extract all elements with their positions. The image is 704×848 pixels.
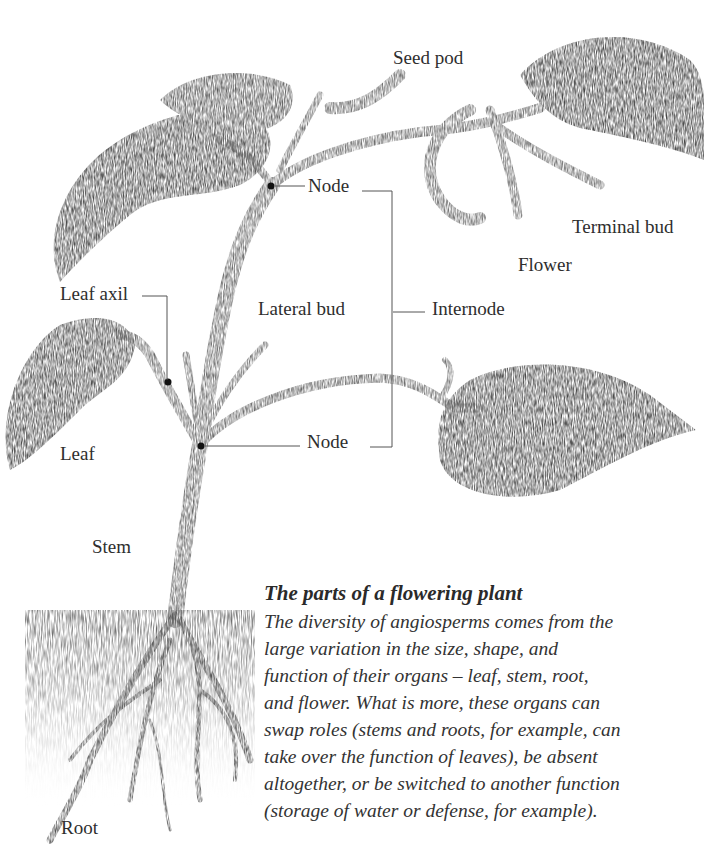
caption-body: The diversity of angiosperms comes from … [264, 608, 704, 824]
label-flower: Flower [518, 255, 572, 274]
label-leaf-axil: Leaf axil [60, 284, 128, 303]
figure-caption: The parts of a flowering plant The diver… [264, 580, 704, 824]
caption-line: swap roles (stems and roots, for example… [264, 719, 621, 740]
node-dot-lower [198, 443, 205, 450]
label-lateral-bud: Lateral bud [258, 299, 345, 318]
caption-line: altogether, or be switched to another fu… [264, 773, 620, 794]
caption-line: function of their organs – leaf, stem, r… [264, 665, 589, 686]
caption-title: The parts of a flowering plant [264, 580, 704, 606]
caption-line: The diversity of angiosperms comes from … [264, 611, 613, 632]
label-root: Root [61, 818, 98, 837]
node-dot-upper [268, 183, 275, 190]
label-leaf: Leaf [60, 444, 95, 463]
label-terminal-bud: Terminal bud [572, 217, 674, 236]
caption-line: and flower. What is more, these organs c… [264, 692, 600, 713]
label-internode: Internode [432, 299, 505, 318]
caption-line: large variation in the size, shape, and [264, 638, 558, 659]
seed-pod [330, 75, 400, 108]
label-node-lower: Node [307, 432, 348, 451]
label-stem: Stem [92, 537, 131, 556]
caption-line: take over the function of leaves), be ab… [264, 746, 598, 767]
label-node-upper: Node [308, 176, 349, 195]
leaf-middle-right [438, 364, 696, 496]
caption-line: (storage of water or defense, for exampl… [264, 800, 598, 821]
label-seed-pod: Seed pod [393, 48, 463, 67]
leaf-axil-dot [165, 379, 172, 386]
leaf-upper-right [520, 37, 704, 160]
